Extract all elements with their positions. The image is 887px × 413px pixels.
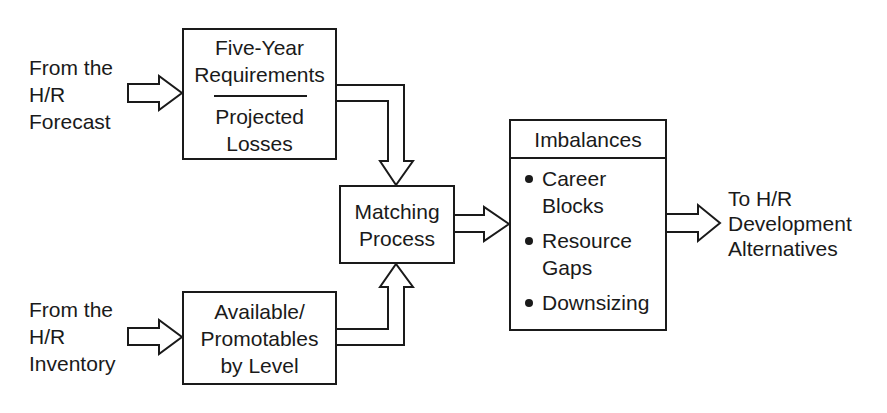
input-label-forecast: From the H/R Forecast [29,54,113,135]
output-label-development-alternatives: To H/R Development Alternatives [728,186,852,261]
matching-process-box: Matching Process [339,185,455,264]
requirements-divider [214,95,307,97]
available-promotables-box: Available/ Promotables by Level [182,291,337,385]
arrow-requirements-to-matching [336,85,413,185]
arrow-available-to-matching [336,264,413,345]
arrow-forecast-to-requirements [128,76,182,110]
imbalance-item-resource-gaps: Resource Gaps [525,227,632,281]
arrow-matching-to-imbalances [454,207,509,241]
arrow-inventory-to-available [128,320,182,354]
imbalance-item-downsizing: Downsizing [525,289,649,316]
bullet-icon [525,299,533,307]
imbalances-header: Imbalances [511,126,665,153]
imbalances-header-divider [511,157,665,159]
input-label-inventory: From the H/R Inventory [29,296,115,377]
bullet-icon [525,237,533,245]
requirements-box: Five-Year Requirements Projected Losses [182,28,337,160]
imbalances-box: Imbalances Career Blocks Resource Gaps D… [509,119,667,331]
bullet-icon [525,175,533,183]
imbalance-item-career-blocks: Career Blocks [525,165,606,219]
arrow-imbalances-to-output [666,205,720,241]
